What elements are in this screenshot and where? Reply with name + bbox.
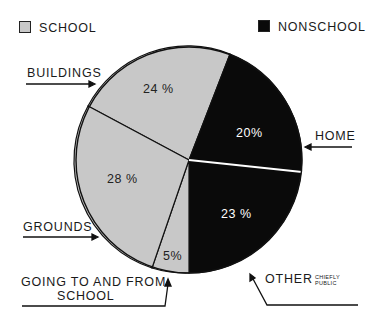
label-other-note: CHIEFLY PUBLIC bbox=[315, 274, 340, 286]
label-home: HOME bbox=[315, 129, 356, 143]
label-other: OTHER bbox=[265, 272, 313, 286]
legend-label-school: SCHOOL bbox=[39, 21, 97, 35]
label-buildings: BUILDINGS bbox=[27, 66, 102, 80]
label-going-line1: GOING TO AND FROM bbox=[21, 275, 166, 289]
legend-swatch-school bbox=[19, 21, 31, 33]
value-going: 5% bbox=[163, 249, 182, 263]
legend-label-nonschool: NONSCHOOL bbox=[278, 20, 366, 34]
value-buildings: 24 % bbox=[143, 82, 174, 96]
value-grounds: 28 % bbox=[107, 172, 138, 186]
legend-swatch-nonschool bbox=[258, 20, 270, 32]
label-grounds: GROUNDS bbox=[23, 220, 93, 234]
value-other: 23 % bbox=[221, 207, 252, 221]
label-going-line2: SCHOOL bbox=[57, 289, 115, 303]
value-home: 20% bbox=[236, 126, 263, 140]
